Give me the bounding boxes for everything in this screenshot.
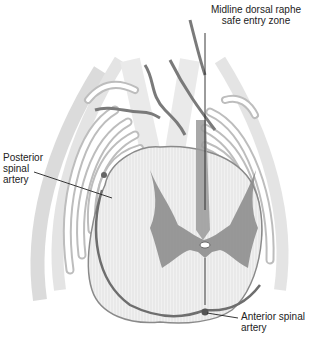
anterior-spinal-artery-marker <box>202 309 209 316</box>
anatomy-illustration: Midline dorsal raphe safe entry zone Pos… <box>0 0 314 337</box>
posterior-spinal-artery-label: Posterior spinal artery <box>3 152 43 185</box>
midline-dorsal-raphe-label: Midline dorsal raphe safe entry zone <box>196 4 314 26</box>
posterior-spinal-artery-marker <box>101 172 107 178</box>
anterior-spinal-artery-label: Anterior spinal artery <box>241 311 305 333</box>
spinal-cord-drawing <box>0 0 314 337</box>
